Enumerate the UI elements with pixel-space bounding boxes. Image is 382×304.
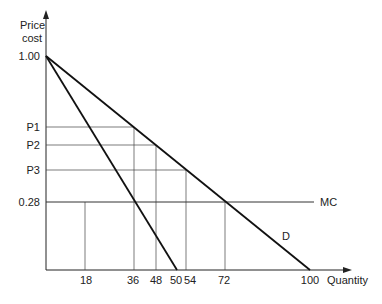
y-tick-1-00: 1.00 — [19, 50, 40, 62]
mc-label: MC — [320, 196, 337, 208]
y-tick-p2: P2 — [27, 139, 40, 151]
x-tick-72: 72 — [218, 274, 230, 286]
x-tick-18: 18 — [80, 274, 92, 286]
x-tick-36: 36 — [127, 274, 139, 286]
chart: Price cost 1.00 P1 P2 P3 0.28 18 36 48 5… — [0, 0, 382, 304]
y-label-line1: Price — [20, 19, 45, 31]
mr-line — [46, 56, 177, 270]
y-tick-p1: P1 — [27, 121, 40, 133]
x-axis-arrow-icon — [343, 267, 352, 273]
y-label-line2: cost — [22, 32, 42, 44]
guide-lines — [46, 127, 225, 270]
y-tick-0-28: 0.28 — [19, 196, 40, 208]
x-tick-50: 50 — [170, 274, 182, 286]
x-tick-100: 100 — [301, 274, 319, 286]
y-axis-arrow-icon — [43, 10, 49, 19]
x-axis-label: Quantity — [327, 274, 368, 286]
demand-line — [46, 56, 310, 270]
demand-label: D — [282, 230, 290, 242]
x-tick-54: 54 — [184, 274, 196, 286]
x-tick-48: 48 — [150, 274, 162, 286]
y-tick-p3: P3 — [27, 164, 40, 176]
